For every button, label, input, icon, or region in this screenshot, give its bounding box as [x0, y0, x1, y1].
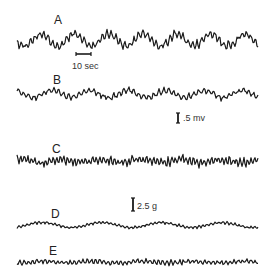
trace-b — [17, 87, 258, 101]
scale-bars — [76, 52, 180, 211]
trace-label-a: A — [54, 14, 62, 26]
trace-e — [17, 258, 258, 265]
force-scale-label: 2.5 g — [137, 202, 157, 211]
trace-label-b: B — [53, 74, 61, 86]
trace-c — [17, 154, 258, 168]
trace-d — [17, 221, 258, 228]
time-scale-label: 10 sec — [72, 62, 99, 71]
trace-label-c: C — [52, 143, 61, 155]
traces-canvas — [0, 0, 274, 280]
voltage-scale-label: .5 mv — [183, 114, 205, 123]
trace-a — [17, 29, 258, 49]
trace-label-e: E — [49, 245, 57, 257]
trace-label-d: D — [51, 208, 60, 220]
